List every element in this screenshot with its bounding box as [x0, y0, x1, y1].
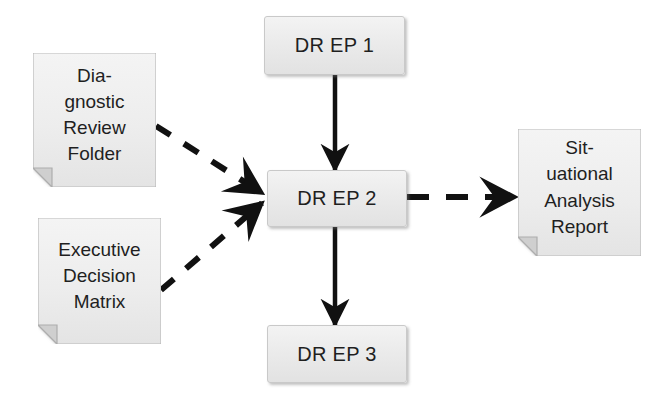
document-text: Dia- gnostic Review Folder	[33, 53, 156, 187]
connector-diagnostic-review-folder-to-dr-ep-2	[156, 126, 262, 193]
process-box-dr-ep-1[interactable]: DR EP 1	[264, 16, 405, 75]
document-line: Folder	[68, 141, 122, 167]
document-line: Analysis	[544, 188, 615, 214]
document-text: Sit- uational Analysis Report	[518, 129, 641, 256]
connector-executive-decision-matrix-to-dr-ep-2	[161, 203, 262, 290]
process-box-dr-ep-3[interactable]: DR EP 3	[267, 325, 407, 383]
document-line: Executive	[58, 237, 140, 263]
process-box-label: DR EP 1	[295, 34, 375, 57]
document-line: Sit-	[565, 135, 594, 161]
document-line: Matrix	[74, 289, 126, 315]
document-situational-analysis-report[interactable]: Sit- uational Analysis Report	[518, 129, 641, 256]
diagram-canvas: DR EP 1 DR EP 2 DR EP 3 Dia- gnos	[0, 0, 669, 400]
process-box-dr-ep-2[interactable]: DR EP 2	[267, 170, 407, 227]
document-line: Report	[551, 214, 608, 240]
document-line: uational	[546, 161, 613, 187]
document-diagnostic-review-folder[interactable]: Dia- gnostic Review Folder	[33, 53, 156, 187]
document-line: Decision	[63, 263, 136, 289]
document-line: gnostic	[64, 89, 124, 115]
process-box-label: DR EP 3	[297, 343, 377, 366]
document-executive-decision-matrix[interactable]: Executive Decision Matrix	[38, 218, 161, 344]
process-box-label: DR EP 2	[297, 187, 377, 210]
document-line: Dia-	[77, 63, 112, 89]
document-text: Executive Decision Matrix	[38, 218, 161, 344]
document-line: Review	[63, 115, 125, 141]
